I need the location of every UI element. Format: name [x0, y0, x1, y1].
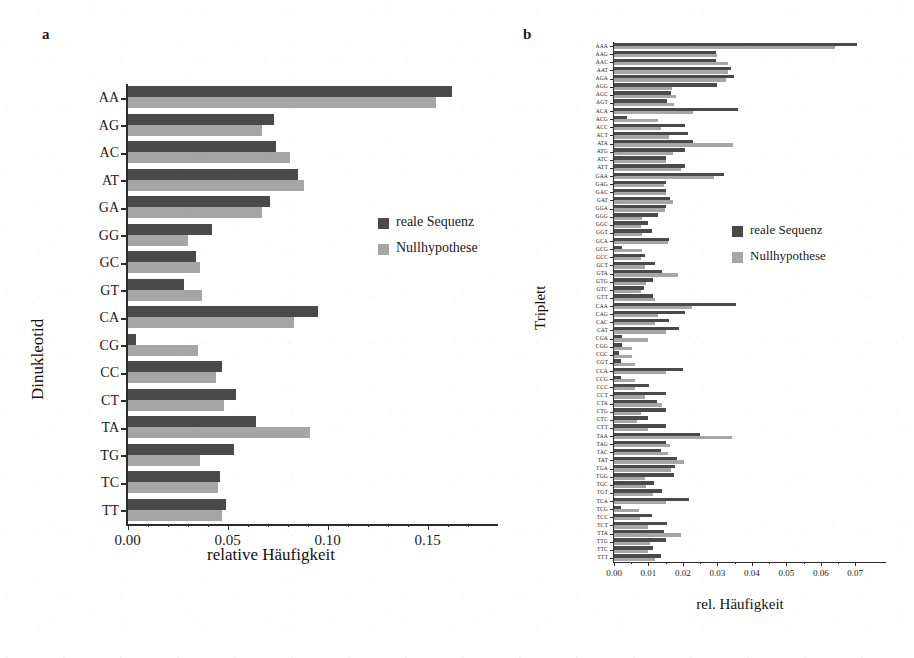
y-tick-CAG [610, 314, 613, 315]
y-tick-GTT [610, 298, 613, 299]
y-tick-TC [121, 483, 126, 485]
y-tick-label-ACC: ACC [588, 124, 608, 131]
y-tick-ACC [610, 127, 613, 128]
x-minor-tick [700, 562, 701, 564]
y-tick-ACA [610, 111, 613, 112]
y-tick-label-GGG: GGG [588, 213, 608, 220]
bar-GGT-null [614, 233, 642, 236]
y-tick-label-GGC: GGC [588, 221, 608, 228]
y-tick-TAA [610, 436, 613, 437]
bar-CGA-null [614, 338, 648, 341]
bar-CCG-null [614, 379, 635, 382]
bar-GA-real [128, 196, 270, 207]
bar-ACG-null [614, 119, 658, 122]
y-tick-label-AAA: AAA [588, 43, 608, 50]
bar-TAA-null [614, 436, 732, 439]
y-tick-TTA [610, 534, 613, 535]
y-tick-CTC [610, 420, 613, 421]
bar-CTG-null [614, 412, 641, 415]
y-tick-label-AA: AA [85, 90, 119, 105]
y-tick-label-ATT: ATT [588, 164, 608, 171]
bar-CGC-null [614, 355, 632, 358]
y-tick-GGA [610, 209, 613, 210]
bar-AAA-null [614, 46, 835, 49]
y-tick-label-CCT: CCT [588, 392, 608, 399]
x-tick-label-0.05: 0.05 [198, 532, 258, 549]
y-tick-label-AAC: AAC [588, 59, 608, 66]
bar-CAA-null [614, 306, 692, 309]
bar-CT-null [128, 400, 224, 411]
y-tick-label-TCG: TCG [588, 506, 608, 513]
x-minor-tick [855, 562, 856, 564]
y-tick-ATC [610, 160, 613, 161]
y-tick-ACG [610, 119, 613, 120]
y-tick-label-AGC: AGC [588, 91, 608, 98]
y-tick-label-TT: TT [85, 503, 119, 518]
bar-GA-null [128, 207, 262, 218]
bar-TG-real [128, 444, 234, 455]
y-tick-CTT [610, 428, 613, 429]
bar-GG-real [128, 224, 212, 235]
bar-ATA-null [614, 143, 733, 146]
bar-TTA-null [614, 533, 681, 536]
y-tick-ATA [610, 144, 613, 145]
y-tick-TCT [610, 525, 613, 526]
y-tick-label-TTT: TTT [588, 554, 608, 561]
bar-TT-real [128, 499, 226, 510]
y-tick-GAG [610, 184, 613, 185]
bar-ATC-null [614, 160, 666, 163]
x-minor-tick [838, 562, 839, 564]
bar-CTT-null [614, 428, 648, 431]
y-tick-TGC [610, 485, 613, 486]
y-tick-GCG [610, 249, 613, 250]
y-tick-label-TTA: TTA [588, 530, 608, 537]
bar-TT-null [128, 510, 222, 521]
y-tick-TG [121, 455, 126, 457]
y-tick-TA [121, 428, 126, 430]
y-tick-label-TGG: TGG [588, 473, 608, 480]
y-tick-TTG [610, 542, 613, 543]
x-minor-tick [268, 524, 270, 527]
bar-AA-real [128, 86, 452, 97]
bar-TCA-null [614, 501, 666, 504]
x-minor-tick [228, 524, 230, 527]
bar-GT-null [128, 290, 202, 301]
y-tick-TTC [610, 550, 613, 551]
x-minor-tick [408, 524, 410, 527]
bar-ATT-null [614, 168, 681, 171]
y-tick-label-GTG: GTG [588, 278, 608, 285]
y-tick-GAT [610, 200, 613, 201]
y-tick-label-TA: TA [85, 420, 119, 435]
bar-TGA-null [614, 468, 671, 471]
y-tick-label-CTC: CTC [588, 416, 608, 423]
y-tick-label-GCA: GCA [588, 238, 608, 245]
bar-TTT-null [614, 558, 655, 561]
y-tick-label-TAT: TAT [588, 457, 608, 464]
bar-GCG-null [614, 249, 642, 252]
y-tick-label-GCT: GCT [588, 262, 608, 269]
legend-swatch-null-icon [732, 252, 743, 263]
y-tick-label-TAA: TAA [588, 433, 608, 440]
y-tick-label-CGT: CGT [588, 359, 608, 366]
y-tick-GT [121, 290, 126, 292]
y-tick-label-TTC: TTC [588, 546, 608, 553]
x-minor-tick [786, 562, 787, 564]
y-tick-label-TCT: TCT [588, 522, 608, 529]
bar-TTC-null [614, 550, 648, 553]
y-tick-label-TG: TG [85, 448, 119, 463]
bar-GTG-null [614, 282, 646, 285]
y-tick-label-AGA: AGA [588, 75, 608, 82]
y-tick-AAT [610, 70, 613, 71]
y-tick-label-TCA: TCA [588, 498, 608, 505]
x-tick-label-0.07: 0.07 [825, 568, 885, 578]
x-minor-tick [804, 562, 805, 564]
y-tick-label-AGG: AGG [588, 83, 608, 90]
x-minor-tick [448, 524, 450, 527]
bar-TA-real [128, 416, 256, 427]
y-tick-GCC [610, 257, 613, 258]
y-tick-label-TGT: TGT [588, 489, 608, 496]
bar-TTG-null [614, 542, 650, 545]
x-minor-tick [428, 524, 430, 527]
y-tick-GCT [610, 265, 613, 266]
bar-AAC-null [614, 62, 728, 65]
